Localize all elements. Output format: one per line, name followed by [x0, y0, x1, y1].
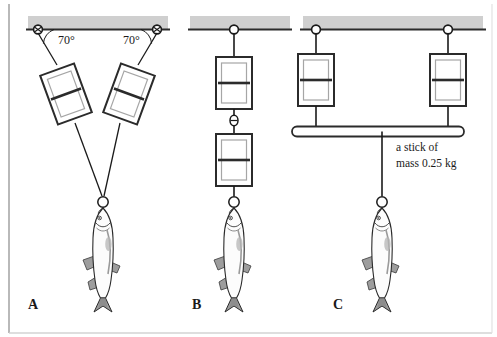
panel-a-fish: [83, 197, 120, 312]
figure-canvas: 70° 70°: [0, 0, 497, 337]
panel-a-left-anchor-ring: [34, 25, 43, 34]
panel-c-ceiling: [300, 16, 486, 30]
panel-a-right-anchor-ring: [153, 25, 162, 34]
panel-c-stick: [292, 127, 464, 137]
panel-c-left-scale: [298, 54, 334, 106]
panel-a-right-scale-assembly: [103, 33, 157, 196]
panel-a-right-scale: [103, 63, 155, 124]
panel-b-anchor-ring: [230, 25, 239, 34]
panel-a-left-angle-label: 70°: [58, 33, 75, 47]
panel-a-left-angle-arc: [43, 30, 54, 44]
panel-a-right-angle-arc: [141, 30, 152, 44]
panel-c-stick-label-line2: mass 0.25 kg: [396, 157, 457, 170]
panel-b-label: B: [192, 297, 201, 312]
panel-a-left-scale: [40, 63, 92, 124]
panel-a: 70° 70°: [26, 16, 170, 312]
panel-b-connector-hook: [230, 115, 238, 125]
panel-a-left-scale-assembly: [38, 33, 102, 196]
panel-c-right-anchor-ring: [444, 25, 453, 34]
panel-c-label: C: [333, 297, 343, 312]
panel-c-right-scale: [430, 54, 466, 106]
panel-a-label: A: [28, 297, 39, 312]
panel-b-upper-scale: [216, 57, 252, 109]
panel-a-ceiling: [26, 16, 170, 30]
panel-b: B: [188, 16, 292, 312]
panel-c-left-anchor-ring: [312, 25, 321, 34]
panel-b-lower-scale: [216, 134, 252, 186]
panel-c-stick-label-line1: a stick of: [396, 141, 438, 153]
panel-c: a stick of mass 0.25 kg C: [292, 16, 486, 312]
panel-b-ceiling: [188, 16, 292, 30]
panel-b-fish: [214, 197, 251, 312]
panel-c-fish: [362, 197, 399, 312]
panel-a-right-angle-label: 70°: [123, 33, 140, 47]
